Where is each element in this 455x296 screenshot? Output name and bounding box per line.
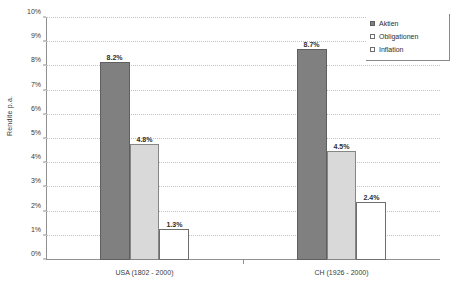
y-axis-tick-mark	[43, 162, 46, 163]
y-axis-tick-mark	[43, 65, 46, 66]
y-axis-tick-mark	[43, 89, 46, 90]
y-axis-tick-label: 6%	[31, 104, 41, 111]
y-axis-tick-label: 4%	[31, 153, 41, 160]
y-axis-tick-mark	[43, 259, 46, 260]
legend-label-inflation: Inflation	[379, 46, 404, 53]
legend-swatch-icon-inflation	[370, 47, 375, 52]
y-axis-line	[46, 18, 47, 260]
legend-swatch-icon-aktien	[370, 21, 375, 26]
legend-label-obligationen: Obligationen	[379, 33, 418, 40]
y-axis-tick-mark	[43, 210, 46, 211]
y-axis-tick-mark	[43, 138, 46, 139]
bar-value-label: 4.5%	[334, 143, 350, 150]
bar-inflation-2[interactable]: 2.4%	[356, 202, 386, 260]
y-axis-tick-mark	[43, 234, 46, 235]
y-axis-tick-label: 2%	[31, 201, 41, 208]
x-axis-category-label: CH (1926 - 2000)	[314, 269, 368, 276]
y-axis-tick-label: 0%	[31, 250, 41, 257]
y-axis-tick-mark	[43, 41, 46, 42]
y-axis-tick-label: 9%	[31, 32, 41, 39]
bar-value-label: 8.7%	[304, 41, 320, 48]
y-axis-tick-mark	[43, 113, 46, 114]
legend-item-aktien[interactable]: Aktien	[370, 17, 445, 30]
bar-value-label: 8.2%	[107, 54, 123, 61]
bar-value-label: 1.3%	[166, 221, 182, 228]
y-axis-tick-label: 8%	[31, 56, 41, 63]
y-axis-tick-label: 3%	[31, 177, 41, 184]
legend-swatch-icon-obligationen	[370, 34, 375, 39]
y-axis-tick-label: 5%	[31, 129, 41, 136]
y-axis-title: Rendite p.a.	[6, 46, 13, 136]
chart-legend: Aktien Obligationen Inflation	[366, 14, 450, 61]
bar-value-label: 4.8%	[137, 136, 153, 143]
legend-item-inflation[interactable]: Inflation	[370, 43, 445, 56]
y-axis-tick-label: 1%	[31, 225, 41, 232]
y-axis-tick-mark	[43, 186, 46, 187]
x-axis-category-label: USA (1802 - 2000)	[116, 269, 174, 276]
legend-item-obligationen[interactable]: Obligationen	[370, 30, 445, 43]
y-axis-tick-label: 7%	[31, 80, 41, 87]
bar-obligationen-1[interactable]: 4.8%	[130, 144, 160, 260]
x-axis-category-separator	[243, 260, 244, 264]
bar-inflation-1[interactable]: 1.3%	[159, 229, 189, 260]
y-axis-tick-mark	[43, 17, 46, 18]
bar-obligationen-2[interactable]: 4.5%	[327, 151, 357, 260]
chart-container: Rendite p.a. 0%1%2%3%4%5%6%7%8%9%10%8.2%…	[0, 0, 455, 296]
bar-aktien-2[interactable]: 8.7%	[297, 49, 327, 260]
bar-aktien-1[interactable]: 8.2%	[100, 62, 130, 260]
y-axis-tick-label: 10%	[27, 8, 41, 15]
bar-value-label: 2.4%	[363, 194, 379, 201]
legend-label-aktien: Aktien	[379, 20, 398, 27]
